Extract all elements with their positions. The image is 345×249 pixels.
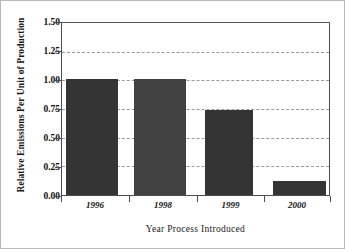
bar-1999[interactable] <box>205 110 253 195</box>
x-tick-label-2000: 2000 <box>264 200 330 211</box>
y-tick-label-1-00: 1.00 <box>14 75 60 85</box>
bar-1996[interactable] <box>66 79 118 195</box>
x-tick-mark-4 <box>330 196 331 202</box>
y-tick-label-0-00: 0.00 <box>14 191 60 201</box>
x-tick-label-1998: 1998 <box>129 200 197 211</box>
y-tick-label-0-75: 0.75 <box>14 104 60 114</box>
bar-1998[interactable] <box>134 79 186 195</box>
y-tick-label-1-25: 1.25 <box>14 46 60 56</box>
y-tick-label-0-25: 0.25 <box>14 162 60 172</box>
y-tick-label-1-50: 1.50 <box>14 17 60 27</box>
plot-area <box>61 22 330 196</box>
y-tick-label-0-50: 0.50 <box>14 133 60 143</box>
gridline-1-25 <box>62 52 329 53</box>
x-tick-label-1999: 1999 <box>197 200 264 211</box>
x-tick-label-1996: 1996 <box>61 200 129 211</box>
chart-figure: Relative Emissions Per Unit of Productio… <box>0 0 345 249</box>
x-axis-title: Year Process Introduced <box>61 224 330 234</box>
bar-2000[interactable] <box>273 181 326 195</box>
